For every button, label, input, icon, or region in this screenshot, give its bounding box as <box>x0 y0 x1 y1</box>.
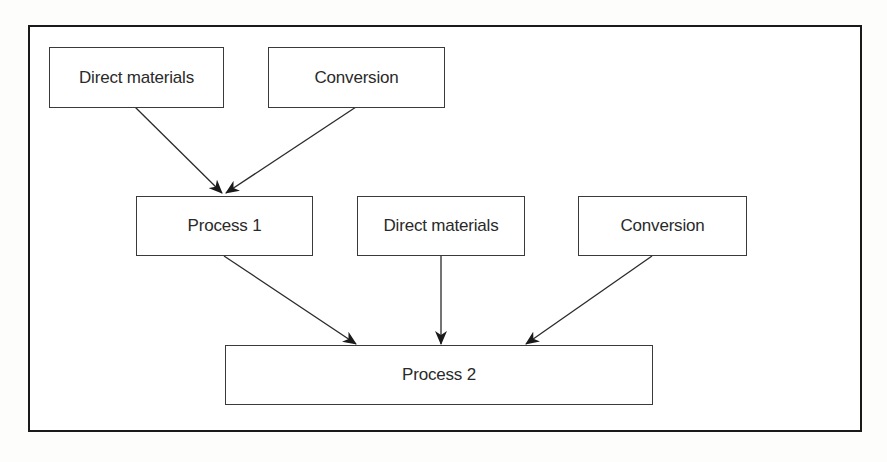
node-conversion-2: Conversion <box>578 196 747 256</box>
node-label: Process 1 <box>188 216 262 236</box>
node-label: Direct materials <box>79 68 194 88</box>
node-direct-materials-2: Direct materials <box>357 196 525 256</box>
node-label: Direct materials <box>384 216 499 236</box>
node-conversion-1: Conversion <box>268 47 445 108</box>
node-label: Conversion <box>315 68 399 88</box>
node-direct-materials-1: Direct materials <box>49 47 224 108</box>
node-label: Process 2 <box>402 365 476 385</box>
node-process-1: Process 1 <box>136 196 313 256</box>
node-process-2: Process 2 <box>225 345 653 405</box>
node-label: Conversion <box>621 216 705 236</box>
